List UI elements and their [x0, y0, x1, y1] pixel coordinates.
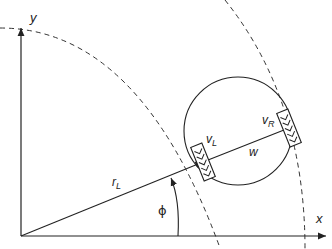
vr-label: vR	[262, 113, 275, 129]
inner-dashed-arc	[0, 28, 220, 248]
w-label: w	[249, 145, 259, 159]
kinematics-diagram: y x vL vR w rL ϕ	[0, 0, 332, 249]
rl-label: rL	[112, 175, 121, 191]
phi-label: ϕ	[158, 203, 167, 218]
y-axis-label: y	[29, 10, 38, 25]
right-wheel	[277, 109, 302, 147]
angle-arc	[171, 178, 178, 236]
radius-line	[21, 162, 203, 236]
vl-label: vL	[206, 132, 217, 148]
x-axis-label: x	[315, 211, 323, 226]
